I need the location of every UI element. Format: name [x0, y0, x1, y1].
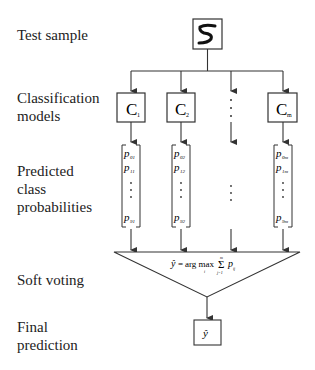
svg-text:ŷ: ŷ: [170, 258, 176, 269]
svg-text:p: p: [173, 147, 180, 159]
svg-text:1: 1: [137, 112, 140, 118]
final-prediction-box: ŷ: [194, 320, 221, 345]
svg-text:02: 02: [180, 155, 186, 160]
model-box-2: C 2: [167, 93, 195, 122]
svg-text:p: p: [173, 161, 180, 173]
svg-text:C: C: [276, 100, 287, 119]
svg-text:12: 12: [180, 169, 186, 174]
svg-text:=: =: [178, 259, 183, 269]
svg-text:p: p: [275, 147, 282, 159]
svg-text:p: p: [275, 211, 282, 223]
svg-text:p: p: [275, 161, 282, 173]
svg-text:01: 01: [130, 155, 135, 160]
svg-text:j=1: j=1: [216, 270, 223, 275]
svg-text:p: p: [173, 211, 180, 223]
model-output-arrows: [131, 122, 283, 142]
svg-text:92: 92: [180, 219, 186, 224]
svg-text:i: i: [204, 269, 205, 274]
distribution-lines: [131, 49, 283, 91]
svg-text:p: p: [123, 161, 130, 173]
svg-text:2: 2: [186, 112, 189, 118]
svg-text:11: 11: [130, 169, 135, 174]
svg-text:9m: 9m: [282, 219, 289, 224]
svg-text:C: C: [175, 100, 186, 119]
svg-text:p: p: [123, 211, 130, 223]
probability-vector-1: p 01 p 11 p 91: [122, 145, 140, 227]
probability-vector-2: p 02 p 12 p 92: [172, 145, 190, 227]
svg-text:m: m: [220, 255, 223, 260]
model-box-m: C m: [268, 93, 297, 122]
svg-text:p: p: [123, 147, 130, 159]
probability-ellipsis: [230, 185, 232, 201]
svg-text:0m: 0m: [282, 155, 289, 160]
soft-voting-funnel: ŷ = arg max i Σ m j=1 p ij: [114, 252, 300, 297]
model-ellipsis: [230, 99, 232, 117]
svg-text:1m: 1m: [282, 169, 289, 174]
test-sample-box: [193, 19, 222, 49]
model-box-1: C 1: [117, 93, 145, 122]
svg-text:arg max: arg max: [185, 259, 215, 269]
ensemble-diagram: C 1 C 2 C m p 01 p 11 p 91: [0, 0, 315, 370]
probability-vector-m: p 0m p 1m p 9m: [274, 145, 292, 227]
svg-text:91: 91: [130, 219, 135, 224]
svg-text:ŷ: ŷ: [202, 327, 208, 339]
svg-text:m: m: [287, 112, 292, 118]
svg-text:C: C: [126, 100, 137, 119]
probability-output-arrows: [131, 229, 283, 250]
